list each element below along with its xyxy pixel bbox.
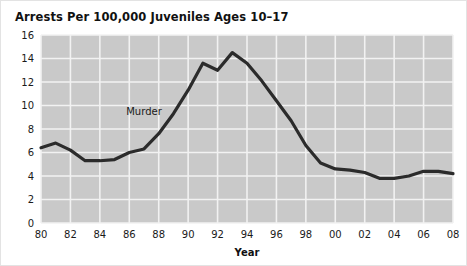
svg-text:14: 14	[21, 53, 34, 64]
svg-text:Year: Year	[234, 247, 260, 258]
svg-text:94: 94	[241, 229, 254, 240]
y-axis-tick-labels: 0246810121416	[21, 30, 34, 229]
x-axis-title: Year	[234, 247, 260, 258]
svg-text:8: 8	[28, 124, 34, 135]
line-chart-plot: 0246810121416 80828486889092949698000204…	[1, 1, 467, 266]
svg-text:98: 98	[299, 229, 312, 240]
svg-text:86: 86	[123, 229, 136, 240]
svg-text:Murder: Murder	[126, 106, 162, 117]
svg-text:08: 08	[447, 229, 460, 240]
svg-text:88: 88	[152, 229, 165, 240]
svg-text:0: 0	[28, 218, 34, 229]
svg-text:90: 90	[182, 229, 195, 240]
svg-text:2: 2	[28, 194, 34, 205]
x-axis-tick-labels: 808284868890929496980002040608	[35, 229, 460, 240]
svg-text:96: 96	[270, 229, 283, 240]
svg-text:10: 10	[21, 100, 34, 111]
series-annotations: Murder	[126, 106, 162, 117]
chart-figure: Arrests Per 100,000 Juveniles Ages 10–17…	[0, 0, 467, 266]
svg-text:16: 16	[21, 30, 34, 41]
svg-text:00: 00	[329, 229, 342, 240]
svg-text:04: 04	[388, 229, 401, 240]
svg-text:6: 6	[28, 147, 34, 158]
svg-text:4: 4	[28, 171, 34, 182]
svg-text:82: 82	[64, 229, 77, 240]
svg-text:92: 92	[211, 229, 224, 240]
svg-text:80: 80	[35, 229, 48, 240]
svg-text:06: 06	[417, 229, 430, 240]
svg-text:02: 02	[358, 229, 371, 240]
svg-text:12: 12	[21, 77, 34, 88]
svg-text:84: 84	[93, 229, 106, 240]
